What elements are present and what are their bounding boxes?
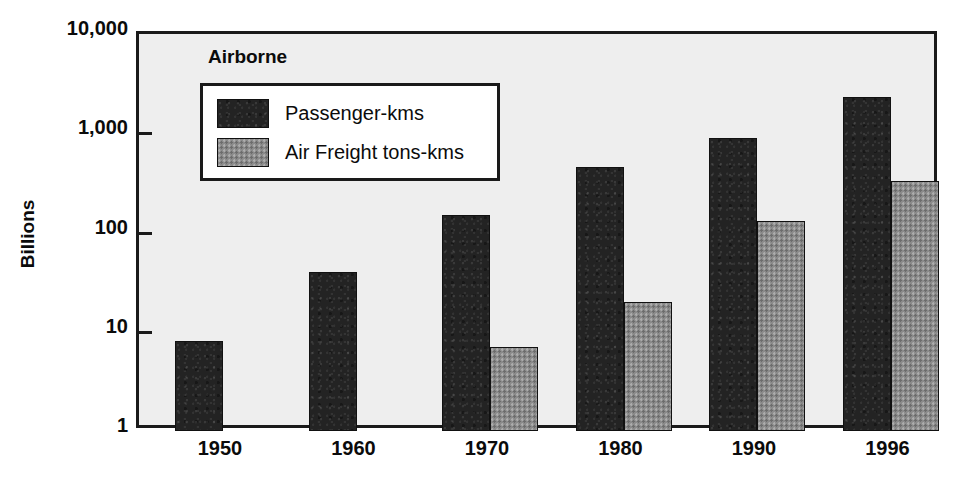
legend-label: Air Freight tons-kms [285, 141, 464, 164]
y-tick-mark [139, 132, 152, 135]
bar [175, 341, 223, 431]
y-tick-label: 1 [16, 414, 128, 437]
bar [757, 221, 805, 431]
x-tick-label: 1990 [694, 437, 814, 460]
y-tick-mark [139, 232, 152, 235]
y-tick-label: 10 [16, 315, 128, 338]
bar [624, 302, 672, 431]
legend: Passenger-kmsAir Freight tons-kms [200, 83, 500, 181]
chart-figure: Billions 10,0001,000100101 1950196019701… [0, 0, 969, 485]
legend-swatch [217, 99, 269, 128]
x-tick-label: 1950 [160, 437, 280, 460]
bar [843, 97, 891, 431]
y-tick-label: 100 [16, 216, 128, 239]
legend-swatch [217, 138, 269, 167]
x-tick-label: 1980 [561, 437, 681, 460]
bar [891, 181, 939, 431]
y-tick-mark [139, 331, 152, 334]
bar [442, 215, 490, 431]
bar [490, 347, 538, 431]
y-tick-label: 1,000 [16, 116, 128, 139]
y-tick-label: 10,000 [16, 17, 128, 40]
bar [309, 272, 357, 431]
x-tick-label: 1996 [828, 437, 948, 460]
legend-item: Passenger-kms [217, 96, 424, 130]
legend-label: Passenger-kms [285, 102, 424, 125]
bar [709, 138, 757, 431]
bar [576, 167, 624, 431]
legend-item: Air Freight tons-kms [217, 135, 464, 169]
x-tick-label: 1970 [427, 437, 547, 460]
x-tick-label: 1960 [294, 437, 414, 460]
y-axis-tick-labels: 10,0001,000100101 [10, 0, 128, 485]
legend-title: Airborne [208, 46, 287, 68]
